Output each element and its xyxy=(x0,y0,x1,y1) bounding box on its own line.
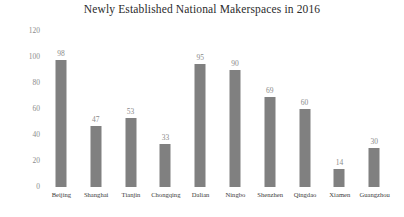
bar-group: 98 xyxy=(44,31,78,187)
bar[interactable] xyxy=(299,109,310,187)
y-axis-tick-label: 80 xyxy=(0,79,40,87)
y-axis-tick-label: 40 xyxy=(0,131,40,139)
bar-group: 95 xyxy=(183,31,217,187)
bar[interactable] xyxy=(230,70,241,187)
bar-group: 90 xyxy=(218,31,252,187)
bar[interactable] xyxy=(369,148,380,187)
bar-value-label: 14 xyxy=(336,159,344,167)
bar[interactable] xyxy=(160,144,171,187)
y-axis-tick-label: 100 xyxy=(0,53,40,61)
x-axis-category-label: Guangzhou xyxy=(352,191,398,199)
bar-group: 33 xyxy=(148,31,182,187)
bar-value-label: 30 xyxy=(370,138,378,146)
bar-value-label: 98 xyxy=(57,50,65,58)
bar[interactable] xyxy=(90,126,101,187)
y-axis-tick-label: 60 xyxy=(0,105,40,113)
bar[interactable] xyxy=(125,118,136,187)
bar[interactable] xyxy=(334,169,345,187)
bar-chart: Newly Established National Makerspaces i… xyxy=(0,0,404,217)
bar-group: 30 xyxy=(357,31,391,187)
plot-area: 98475333959069601430 xyxy=(44,31,392,187)
y-axis-tick-label: 0 xyxy=(0,183,40,191)
bar-group: 69 xyxy=(253,31,287,187)
bar-value-label: 33 xyxy=(162,134,170,142)
bar-value-label: 60 xyxy=(301,99,309,107)
bar-value-label: 53 xyxy=(127,108,135,116)
bar-group: 60 xyxy=(288,31,322,187)
chart-title: Newly Established National Makerspaces i… xyxy=(0,3,404,15)
bar[interactable] xyxy=(56,60,67,187)
bar-group: 53 xyxy=(114,31,148,187)
bar-value-label: 69 xyxy=(266,87,274,95)
bar-group: 47 xyxy=(79,31,113,187)
bar[interactable] xyxy=(195,64,206,188)
y-axis: 020406080100120 xyxy=(0,31,40,187)
bar-value-label: 90 xyxy=(231,60,239,68)
bar-value-label: 47 xyxy=(92,116,100,124)
bar-group: 14 xyxy=(322,31,356,187)
bar[interactable] xyxy=(264,97,275,187)
y-axis-tick-label: 20 xyxy=(0,157,40,165)
y-axis-tick-label: 120 xyxy=(0,27,40,35)
bar-value-label: 95 xyxy=(196,54,204,62)
